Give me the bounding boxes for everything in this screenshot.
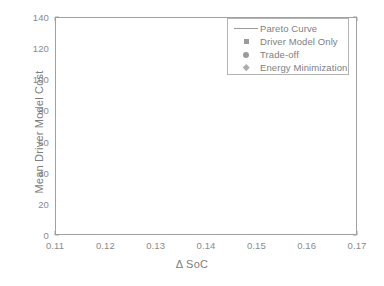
legend-item-driver-model-only: Driver Model Only [228,35,348,48]
x-tick-label: 0.12 [96,240,115,251]
circle-marker-icon [232,52,260,58]
diamond-marker-icon [232,65,260,70]
y-axis-label: Mean Driver Model Cost [33,27,45,237]
line-icon [232,28,260,29]
x-axis-label: Δ SoC [0,258,384,270]
legend-item-trade-off: Trade-off [228,48,348,61]
pareto-chart-figure: 020406080100120140 0.110.120.130.140.150… [0,0,384,286]
legend-item-pareto-curve: Pareto Curve [228,22,348,35]
legend-label: Energy Minimization [260,62,347,73]
x-tick-label: 0.14 [197,240,216,251]
legend-label: Driver Model Only [260,36,338,47]
x-tick-label: 0.16 [297,240,316,251]
y-tick-label: 140 [0,12,49,23]
chart-legend: Pareto Curve Driver Model Only Trade-off… [227,18,349,75]
legend-label: Trade-off [260,49,299,60]
x-tick-label: 0.13 [146,240,165,251]
legend-item-energy-minimization: Energy Minimization [228,61,348,74]
x-tick-label: 0.11 [46,240,64,251]
legend-label: Pareto Curve [260,23,317,34]
x-tick-label: 0.15 [247,240,266,251]
x-tick-label: 0.17 [348,240,367,251]
square-marker-icon [232,39,260,44]
